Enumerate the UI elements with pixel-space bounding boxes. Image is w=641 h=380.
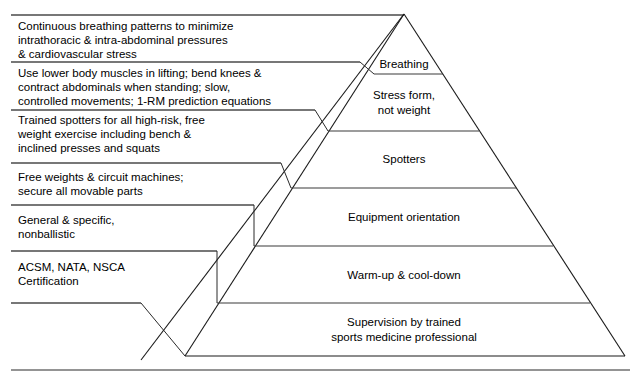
tier-label-stress-form-line-1: Stress form, xyxy=(373,89,435,101)
connector-spotters xyxy=(281,163,291,188)
note-breathing-line-3: & cardiovascular stress xyxy=(18,48,137,60)
tier-label-equipment-orientation-line-1: Equipment orientation xyxy=(348,211,460,223)
tier-label-breathing-line-1: Breathing xyxy=(379,58,428,70)
pyramid-right-edge xyxy=(404,14,625,356)
note-warm-up-line-2: nonballistic xyxy=(18,228,75,240)
note-equipment-orientation: Free weights & circuit machines; secure … xyxy=(18,171,184,197)
note-breathing-line-1: Continuous breathing patterns to minimiz… xyxy=(18,20,233,32)
tier-label-supervision-line-1: Supervision by trained xyxy=(347,316,461,328)
note-spotters-line-1: Trained spotters for all high-risk, free xyxy=(18,114,205,126)
tier-label-spotters: Spotters xyxy=(383,153,426,165)
tier-label-spotters-line-1: Spotters xyxy=(383,153,426,165)
tier-label-equipment-orientation: Equipment orientation xyxy=(348,211,460,223)
note-warm-up-line-1: General & specific, xyxy=(18,214,115,226)
note-stress-form-line-1: Use lower body muscles in lifting; bend … xyxy=(18,67,262,79)
note-stress-form: Use lower body muscles in lifting; bend … xyxy=(18,67,271,107)
note-breathing: Continuous breathing patterns to minimiz… xyxy=(18,20,233,60)
note-supervision-line-2: Certification xyxy=(18,275,79,287)
tier-label-supervision: Supervision by trained sports medicine p… xyxy=(331,316,477,343)
tier-label-warm-up: Warm-up & cool-down xyxy=(347,269,460,281)
note-breathing-line-2: intrathoracic & intra-abdominal pressure… xyxy=(18,34,228,46)
note-supervision-line-1: ACSM, NATA, NSCA xyxy=(18,261,125,273)
tier-label-stress-form-line-2: not weight xyxy=(378,104,431,116)
note-equipment-orientation-line-2: secure all movable parts xyxy=(18,185,143,197)
tier-label-warm-up-line-1: Warm-up & cool-down xyxy=(347,269,460,281)
pyramid-left-edge xyxy=(185,14,404,356)
tier-label-supervision-line-2: sports medicine professional xyxy=(331,331,477,343)
note-equipment-orientation-line-1: Free weights & circuit machines; xyxy=(18,171,184,183)
tier-label-stress-form: Stress form, not weight xyxy=(373,89,435,116)
note-stress-form-line-2: contract abdominals when standing; slow, xyxy=(18,81,230,93)
note-stress-form-line-3: controlled movements; 1-RM prediction eq… xyxy=(18,95,271,107)
tier-label-breathing: Breathing xyxy=(379,58,428,70)
note-warm-up: General & specific, nonballistic xyxy=(18,214,115,240)
note-supervision: ACSM, NATA, NSCA Certification xyxy=(18,261,125,287)
pyramid-diagram: Continuous breathing patterns to minimiz… xyxy=(0,0,641,380)
pyramid-svg: Continuous breathing patterns to minimiz… xyxy=(0,0,641,380)
note-spotters-line-2: weight exercise including bench & xyxy=(17,128,192,140)
note-spotters: Trained spotters for all high-risk, free… xyxy=(17,114,205,154)
note-spotters-line-3: inclined presses and squats xyxy=(18,142,160,154)
